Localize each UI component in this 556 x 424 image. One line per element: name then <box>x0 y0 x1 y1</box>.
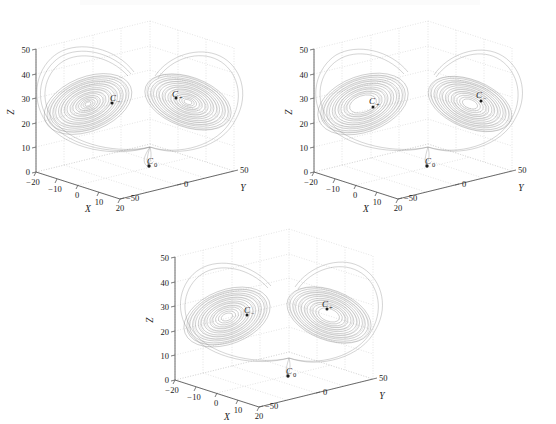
z-tick-30: 30 <box>22 94 31 104</box>
label-c-zero-panel-1: C <box>147 156 154 166</box>
z-tick-10: 10 <box>22 143 31 153</box>
x-tick-labels-panel-1: −20 −10 0 10 20 <box>26 177 124 213</box>
x-axis-title-panel-3: X <box>223 412 231 422</box>
z-tick-40: 40 <box>161 278 170 288</box>
plot-panel-1: C − C + C 0 0 10 20 30 40 50 −20 −10 0 <box>0 4 278 216</box>
plot-panel-3: C − C + C 0 0 10 20 30 40 50 −20 −10 0 1… <box>139 212 417 424</box>
y-tick-0: 0 <box>184 179 188 189</box>
label-c-plus-panel-3: C <box>322 299 329 309</box>
y-tick-50: 50 <box>379 373 388 383</box>
label-c-plus-sub-panel-2: + <box>376 101 380 108</box>
z-tick-50: 50 <box>161 253 170 263</box>
z-axis-title-panel-1: Z <box>6 109 16 115</box>
y-tick-n50: −50 <box>126 193 139 203</box>
x-tick-20: 20 <box>116 203 125 213</box>
z-axis-title-panel-3: Z <box>145 317 155 323</box>
x-tick-0: 0 <box>353 190 357 200</box>
z-tick-labels-panel-2: 0 10 20 30 40 50 <box>300 45 309 177</box>
x-tick-labels-panel-2: −20 −10 0 10 20 <box>304 177 402 213</box>
z-tick-10: 10 <box>161 351 170 361</box>
y-tick-labels-panel-2: 50 0 −50 <box>404 165 527 203</box>
x-tick-n10: −10 <box>48 184 61 194</box>
x-tick-labels-panel-3: −20 −10 0 10 20 <box>165 385 263 421</box>
label-c-minus-sub-panel-2: − <box>483 95 487 102</box>
lorenz-attractor-trajectory-panel-3 <box>175 262 382 375</box>
axes-grid-panel-2 <box>314 21 512 199</box>
label-c-zero-panel-3: C <box>286 366 293 376</box>
x-tick-10: 10 <box>234 405 243 415</box>
x-tick-0: 0 <box>75 190 79 200</box>
z-tick-30: 30 <box>161 302 170 312</box>
label-c-zero-panel-2: C <box>425 156 432 166</box>
label-c-plus-sub-panel-1: + <box>179 94 183 101</box>
z-tick-labels-panel-1: 0 10 20 30 40 50 <box>22 45 31 177</box>
z-tick-10: 10 <box>300 143 309 153</box>
z-axis-title-panel-2: Z <box>284 109 294 115</box>
z-tick-20: 20 <box>300 119 309 129</box>
x-tick-n10: −10 <box>187 392 200 402</box>
x-tick-n20: −20 <box>26 177 39 187</box>
label-c-minus-panel-2: C <box>476 90 483 100</box>
panel-2-svg: C + C − C 0 0 10 20 30 40 50 −20 −10 0 1… <box>278 4 556 216</box>
plot-panel-2: C + C − C 0 0 10 20 30 40 50 −20 −10 0 1… <box>278 4 556 216</box>
label-c-minus-sub-panel-1: − <box>117 98 121 105</box>
z-tick-40: 40 <box>22 70 31 80</box>
tick-marks-panel-3 <box>171 257 377 411</box>
axis-lines-panel-1 <box>36 49 234 199</box>
axes-grid-panel-1 <box>36 21 234 199</box>
z-tick-0: 0 <box>165 375 169 385</box>
y-tick-n50: −50 <box>404 193 417 203</box>
x-tick-10: 10 <box>95 197 104 207</box>
x-tick-10: 10 <box>373 197 382 207</box>
y-tick-labels-panel-1: 50 0 −50 <box>126 165 249 203</box>
lorenz-attractor-density-panel-3 <box>180 276 377 355</box>
equilibrium-points-panel-1 <box>111 97 178 168</box>
z-tick-0: 0 <box>304 167 308 177</box>
z-tick-20: 20 <box>22 119 31 129</box>
label-c-zero-sub-panel-3: 0 <box>293 371 296 378</box>
label-c-minus-sub-panel-3: − <box>251 310 255 317</box>
y-axis-title-panel-2: Y <box>518 183 525 193</box>
figure-canvas: C − C + C 0 0 10 20 30 40 50 −20 −10 0 <box>0 0 556 424</box>
panel-3-svg: C − C + C 0 0 10 20 30 40 50 −20 −10 0 1… <box>139 212 417 424</box>
axis-lines-panel-3 <box>175 257 373 407</box>
equilibrium-labels-panel-3: C − C + C 0 <box>244 299 333 378</box>
y-tick-50: 50 <box>240 165 249 175</box>
z-tick-50: 50 <box>22 45 31 55</box>
z-tick-0: 0 <box>26 167 30 177</box>
z-tick-labels-panel-3: 0 10 20 30 40 50 <box>161 253 170 385</box>
y-tick-50: 50 <box>518 165 527 175</box>
z-tick-40: 40 <box>300 70 309 80</box>
lorenz-attractor-trajectory-panel-1 <box>35 47 243 166</box>
label-c-plus-sub-panel-3: + <box>329 304 333 311</box>
y-axis-title-panel-3: Y <box>379 391 386 401</box>
x-tick-n10: −10 <box>326 184 339 194</box>
y-tick-n50: −50 <box>265 401 278 411</box>
y-tick-0: 0 <box>462 179 466 189</box>
x-tick-0: 0 <box>214 398 218 408</box>
x-tick-20: 20 <box>255 411 264 421</box>
label-c-minus-panel-1: C <box>110 93 117 103</box>
x-tick-n20: −20 <box>304 177 317 187</box>
x-tick-n20: −20 <box>165 385 178 395</box>
label-c-plus-panel-2: C <box>369 96 376 106</box>
panel-1-svg: C − C + C 0 0 10 20 30 40 50 −20 −10 0 <box>0 4 278 216</box>
y-tick-labels-panel-3: 50 0 −50 <box>265 373 388 411</box>
y-tick-0: 0 <box>323 387 327 397</box>
label-c-zero-sub-panel-2: 0 <box>432 161 435 168</box>
z-tick-30: 30 <box>300 94 309 104</box>
axis-lines-panel-2 <box>314 49 512 199</box>
x-axis-title-panel-1: X <box>84 204 92 214</box>
label-c-zero-sub-panel-1: 0 <box>154 161 157 168</box>
z-tick-20: 20 <box>161 327 170 337</box>
z-tick-50: 50 <box>300 45 309 55</box>
y-axis-title-panel-1: Y <box>240 183 247 193</box>
label-c-plus-panel-1: C <box>172 89 179 99</box>
lorenz-attractor-trajectory-panel-2 <box>309 49 522 165</box>
lorenz-attractor-density-panel-1 <box>40 63 237 143</box>
label-c-minus-panel-3: C <box>244 305 251 315</box>
